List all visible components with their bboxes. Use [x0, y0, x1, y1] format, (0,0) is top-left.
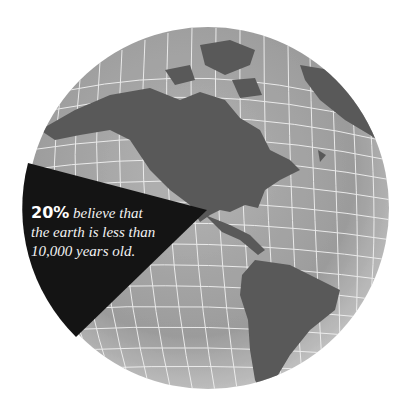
- slice-caption: 20% believe that the earth is less than …: [31, 203, 201, 261]
- caption-line-3: 10,000 years old.: [31, 243, 135, 259]
- caption-line-1: believe that: [69, 205, 142, 221]
- percent-label: 20%: [31, 203, 69, 222]
- caption-line-2: the earth is less than: [31, 224, 155, 240]
